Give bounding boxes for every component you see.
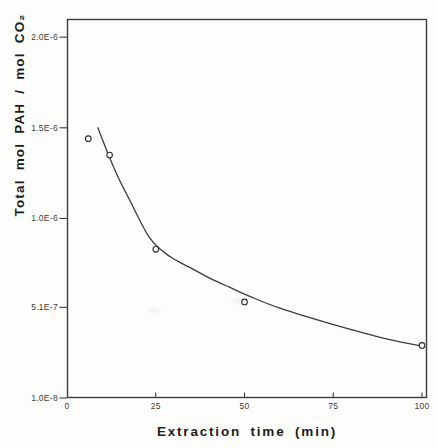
data-point — [419, 343, 425, 349]
plot-frame — [68, 20, 427, 398]
y-tick-label: 1.0E-6 — [21, 213, 58, 223]
x-tick-label: 50 — [239, 401, 249, 411]
x-tick-label: 25 — [151, 401, 161, 411]
fit-curve — [98, 128, 422, 346]
y-tick-label: 2.0E-6 — [21, 32, 58, 42]
x-tick-label: 75 — [328, 401, 338, 411]
x-axis-title: Extraction time (min) — [157, 424, 337, 439]
data-point — [153, 247, 159, 253]
y-axis-title: Total mol PAH / mol CO₂ — [12, 13, 27, 216]
data-point — [86, 136, 92, 142]
x-tick-label: 100 — [414, 401, 429, 411]
scan-smudge — [148, 308, 160, 313]
x-tick-label: 0 — [64, 401, 69, 411]
scan-smudge — [231, 298, 247, 304]
plot-canvas — [0, 0, 438, 448]
pah-extraction-figure: Total mol PAH / mol CO₂ Extraction time … — [0, 0, 438, 448]
data-point — [107, 152, 113, 158]
y-tick-label: 5.1E-7 — [21, 302, 58, 312]
y-tick-label: 1.5E-6 — [21, 123, 58, 133]
y-tick-label: 1.0E-8 — [21, 393, 58, 403]
